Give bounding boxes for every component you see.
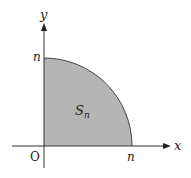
y-axis-label: y	[39, 7, 48, 22]
x-axis-arrow-icon	[163, 143, 171, 149]
x-intercept-label: n	[127, 150, 135, 164]
y-intercept-label: n	[33, 50, 41, 64]
quarter-circle-diagram: x y O n n Sn	[0, 0, 191, 178]
region-s-n	[44, 58, 132, 146]
y-axis-arrow-icon	[41, 23, 47, 31]
x-axis-label: x	[174, 138, 182, 153]
origin-label: O	[30, 150, 40, 164]
